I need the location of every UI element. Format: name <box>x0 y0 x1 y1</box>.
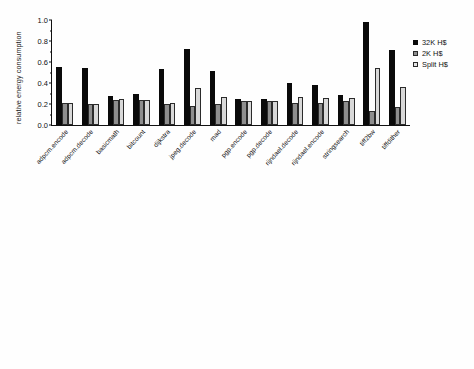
bar <box>363 22 369 125</box>
bar <box>144 100 150 125</box>
bar <box>221 97 227 125</box>
bar <box>349 98 355 125</box>
bar-group <box>282 20 308 125</box>
bar-group <box>52 20 78 125</box>
bar-group <box>129 20 155 125</box>
x-tick: basicmath <box>102 126 128 182</box>
legend-label: Split H$ <box>422 60 448 69</box>
legend-label: 32K H$ <box>422 38 447 47</box>
y-tick-mark <box>49 104 52 105</box>
y-tick-minor-mark <box>50 72 52 73</box>
bar-group <box>154 20 180 125</box>
x-tick: tiffdither <box>384 126 410 182</box>
bar-group <box>103 20 129 125</box>
bar <box>375 68 381 125</box>
legend-swatch-icon <box>413 62 418 67</box>
y-tick-minor-mark <box>50 93 52 94</box>
bar-group <box>231 20 257 125</box>
y-tick-mark <box>49 62 52 63</box>
bar <box>323 98 329 125</box>
x-tick-label: tiff2bw <box>358 128 376 147</box>
y-tick-minor-mark <box>50 114 52 115</box>
bar <box>170 103 176 125</box>
y-tick-mark <box>49 83 52 84</box>
x-tick-label: tiffdither <box>380 128 401 150</box>
y-tick-mark <box>49 20 52 21</box>
bar <box>298 97 304 125</box>
legend-swatch-icon <box>413 40 418 45</box>
energy-plot-area: 0.00.20.40.60.81.0 <box>51 20 410 126</box>
bar-group <box>180 20 206 125</box>
x-tick: tiff2bw <box>358 126 384 182</box>
bar <box>93 104 99 125</box>
bar-group <box>333 20 359 125</box>
x-tick: jpeg.decode <box>179 126 205 182</box>
bar <box>400 87 406 125</box>
energy-chart-panel: relative energy consumption 0.00.20.40.6… <box>0 0 474 185</box>
bar-group <box>385 20 411 125</box>
x-tick: bitcount <box>128 126 154 182</box>
bar-group <box>78 20 104 125</box>
energy-legend: 32K H$2K H$Split H$ <box>413 37 448 70</box>
legend-entry: Split H$ <box>413 59 448 70</box>
bar <box>119 99 125 125</box>
legend-entry: 2K H$ <box>413 48 448 59</box>
bar <box>272 101 278 125</box>
bar-group <box>205 20 231 125</box>
y-tick-mark <box>49 41 52 42</box>
x-tick: stringsearch <box>332 126 358 182</box>
bar <box>68 103 74 125</box>
figure-root: relative energy consumption 0.00.20.40.6… <box>0 0 474 369</box>
x-tick-label: dijkstra <box>152 128 171 149</box>
energy-x-axis-labels: adpcm.encodeadpcm.decodebasicmathbitcoun… <box>51 126 409 182</box>
y-axis-label-energy: relative energy consumption <box>14 31 23 124</box>
bar-group <box>257 20 283 125</box>
x-tick-label: bitcount <box>125 128 146 150</box>
legend-entry: 32K H$ <box>413 37 448 48</box>
bar-group <box>359 20 385 125</box>
y-tick-minor-mark <box>50 51 52 52</box>
bar <box>195 88 201 125</box>
x-tick-label: mad <box>209 128 223 142</box>
bar <box>247 101 253 125</box>
legend-swatch-icon <box>413 51 418 56</box>
energy-bar-groups <box>52 20 410 125</box>
exectime-chart-panel: relative execution time 0.00.20.40.60.81… <box>0 184 474 369</box>
bar-group <box>308 20 334 125</box>
legend-label: 2K H$ <box>422 49 443 58</box>
y-tick-minor-mark <box>50 30 52 31</box>
